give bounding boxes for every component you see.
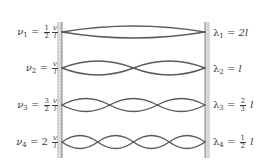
- lambda-value: l: [250, 136, 253, 147]
- wavelength-label-2: λ2 = l: [213, 64, 242, 76]
- coef-fraction: 12: [44, 25, 50, 40]
- equals-sign: =: [31, 99, 39, 110]
- equals-sign: =: [227, 99, 235, 110]
- equals-sign: =: [39, 62, 47, 73]
- wave-mode-3: [62, 99, 205, 112]
- equals-sign: =: [227, 63, 235, 74]
- equals-sign: =: [227, 27, 235, 38]
- wave-mode-4: [62, 136, 205, 149]
- v-over-l-fraction: vl: [52, 135, 58, 150]
- frequency-label-3: ν3 = 32vl: [17, 98, 59, 113]
- wavelength-label-3: λ3 = 23 l: [213, 98, 253, 113]
- lambda-value: 2l: [239, 27, 249, 38]
- subscript: 4: [22, 141, 26, 149]
- subscript: 2: [32, 67, 36, 75]
- wave-mode-2: [62, 61, 205, 75]
- subscript: 2: [219, 68, 223, 76]
- coef-fraction: 23: [240, 98, 246, 113]
- right-wall: [205, 22, 210, 158]
- coef-fraction: 12: [240, 135, 246, 150]
- equals-sign: =: [31, 26, 39, 37]
- v-over-l-fraction: vl: [52, 25, 58, 40]
- coef-text: 2: [41, 136, 47, 147]
- frequency-label-4: ν4 = 2 vl: [16, 135, 59, 150]
- v-over-l-fraction: vl: [52, 61, 58, 76]
- wavelength-label-4: λ4 = 12 l: [213, 135, 253, 150]
- wavelength-label-1: λ1 = 2l: [213, 28, 248, 40]
- subscript: 1: [23, 31, 27, 39]
- frequency-label-1: ν1 = 12vl: [17, 25, 59, 40]
- lambda-value: l: [239, 63, 242, 74]
- v-over-l-fraction: vl: [52, 98, 58, 113]
- subscript: 3: [23, 104, 27, 112]
- subscript: 1: [219, 32, 223, 40]
- coef-fraction: 32: [44, 98, 50, 113]
- equals-sign: =: [30, 136, 38, 147]
- wave-mode-1: [62, 26, 205, 38]
- equals-sign: =: [227, 136, 235, 147]
- subscript: 4: [219, 141, 223, 149]
- subscript: 3: [219, 104, 223, 112]
- lambda-value: l: [250, 99, 253, 110]
- frequency-label-2: ν2 = vl: [26, 61, 59, 76]
